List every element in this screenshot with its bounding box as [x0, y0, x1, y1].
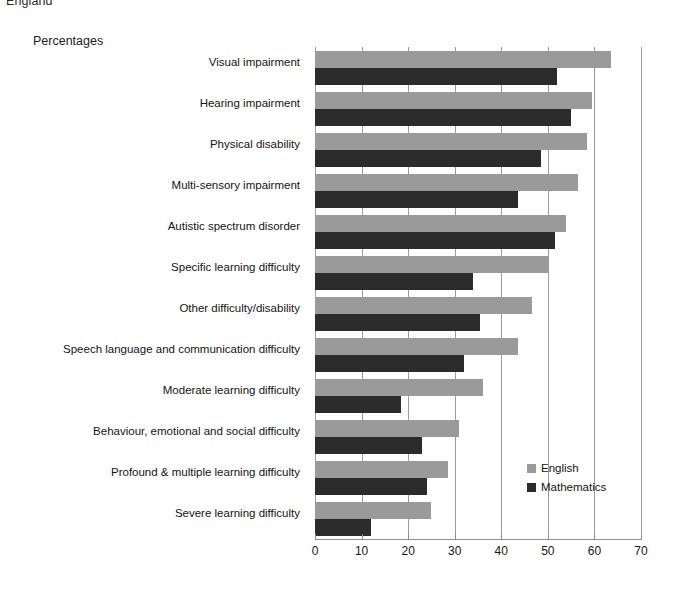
- bar-group: [315, 88, 641, 129]
- bar-mathematics: [315, 232, 555, 249]
- category-label: Behaviour, emotional and social difficul…: [93, 425, 300, 437]
- bar-group: [315, 252, 641, 293]
- bar-chart: Visual impairmentHearing impairmentPhysi…: [0, 0, 675, 589]
- category-label: Other difficulty/disability: [179, 302, 300, 314]
- axis-tick: [455, 534, 456, 540]
- bar-mathematics: [315, 109, 571, 126]
- category-label: Profound & multiple learning difficulty: [111, 466, 300, 478]
- bar-group: [315, 293, 641, 334]
- bar-english: [315, 133, 587, 150]
- axis-line: [315, 539, 641, 540]
- category-label: Autistic spectrum disorder: [168, 220, 300, 232]
- axis-tick-label: 30: [448, 544, 461, 558]
- value-axis: 010203040506070: [315, 539, 641, 569]
- bar-mathematics: [315, 191, 518, 208]
- bar-english: [315, 502, 431, 519]
- category-label: Multi-sensory impairment: [172, 179, 300, 191]
- bar-english: [315, 420, 459, 437]
- legend-swatch-english: [527, 464, 536, 473]
- axis-tick-label: 10: [355, 544, 368, 558]
- axis-tick: [315, 534, 316, 540]
- axis-tick-label: 0: [312, 544, 319, 558]
- bar-mathematics: [315, 396, 401, 413]
- bar-english: [315, 338, 518, 355]
- category-axis-labels: Visual impairmentHearing impairmentPhysi…: [0, 47, 308, 539]
- bar-english: [315, 174, 578, 191]
- legend-label-english: English: [541, 462, 579, 474]
- bar-group: [315, 47, 641, 88]
- axis-tick: [362, 534, 363, 540]
- bar-mathematics: [315, 68, 557, 85]
- bar-english: [315, 51, 611, 68]
- bar-group: [315, 498, 641, 539]
- bar-mathematics: [315, 314, 480, 331]
- bar-mathematics: [315, 150, 541, 167]
- axis-tick-label: 70: [634, 544, 647, 558]
- axis-tick: [501, 534, 502, 540]
- bar-english: [315, 379, 483, 396]
- bar-english: [315, 297, 532, 314]
- bar-group: [315, 170, 641, 211]
- axis-tick-label: 50: [541, 544, 554, 558]
- category-label: Visual impairment: [209, 56, 300, 68]
- bar-mathematics: [315, 355, 464, 372]
- category-label: Severe learning difficulty: [175, 507, 300, 519]
- bar-mathematics: [315, 437, 422, 454]
- chart-legend: English Mathematics: [527, 462, 606, 500]
- bar-english: [315, 461, 448, 478]
- axis-tick-label: 20: [401, 544, 414, 558]
- category-label: Hearing impairment: [200, 97, 300, 109]
- axis-tick: [641, 534, 642, 540]
- legend-label-mathematics: Mathematics: [541, 481, 606, 493]
- category-label: Moderate learning difficulty: [163, 384, 300, 396]
- axis-tick-label: 40: [495, 544, 508, 558]
- legend-item-mathematics: Mathematics: [527, 481, 606, 493]
- axis-tick-label: 60: [588, 544, 601, 558]
- bar-english: [315, 92, 592, 109]
- bar-english: [315, 256, 548, 273]
- bar-group: [315, 129, 641, 170]
- bar-mathematics: [315, 273, 473, 290]
- category-label: Specific learning difficulty: [171, 261, 300, 273]
- bar-group: [315, 375, 641, 416]
- bar-english: [315, 215, 566, 232]
- bar-mathematics: [315, 478, 427, 495]
- bar-group: [315, 416, 641, 457]
- axis-tick: [594, 534, 595, 540]
- axis-tick: [548, 534, 549, 540]
- gridline: [641, 47, 642, 539]
- axis-tick: [408, 534, 409, 540]
- bar-mathematics: [315, 519, 371, 536]
- legend-swatch-mathematics: [527, 483, 536, 492]
- category-label: Physical disability: [210, 138, 300, 150]
- bar-group: [315, 211, 641, 252]
- bar-group: [315, 334, 641, 375]
- legend-item-english: English: [527, 462, 606, 474]
- category-label: Speech language and communication diffic…: [63, 343, 300, 355]
